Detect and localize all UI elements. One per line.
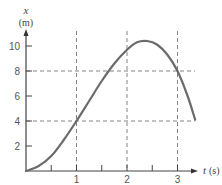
x-axis-arrow-icon	[191, 169, 198, 174]
x-tick-label: 3	[175, 174, 181, 184]
x-tick-label: 2	[124, 174, 130, 184]
position-curve	[26, 41, 195, 171]
x-tick-label: 1	[74, 174, 80, 184]
y-tick-label: 2	[14, 141, 20, 152]
y-tick-label: 4	[14, 116, 20, 127]
y-axis-arrow-icon	[24, 29, 29, 36]
y-axis-unit: (m)	[19, 17, 33, 29]
x-axis-symbol: t	[203, 164, 207, 176]
ticks: 246810123	[9, 41, 181, 185]
y-tick-label: 8	[14, 66, 20, 77]
y-tick-label: 10	[9, 41, 21, 52]
y-axis-title: x (m)	[19, 4, 33, 29]
y-tick-label: 6	[14, 91, 20, 102]
axes	[24, 29, 199, 174]
dashed-reference-lines	[26, 31, 195, 171]
x-axis-unit: (s)	[209, 165, 220, 177]
position-time-chart: 246810123 x (m) t (s)	[0, 0, 222, 184]
y-axis-symbol: x	[23, 4, 29, 16]
x-axis-title: t (s)	[203, 164, 220, 177]
